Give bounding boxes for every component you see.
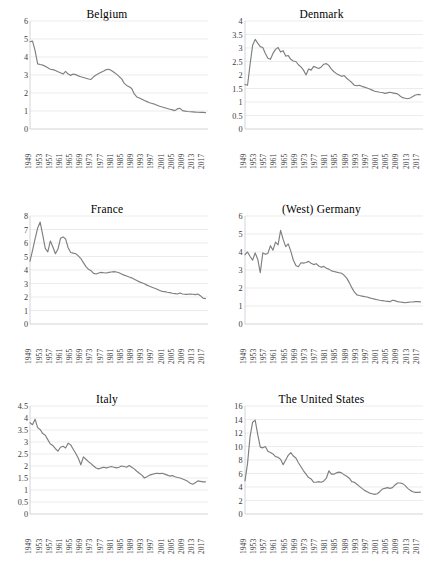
x-tick-label: 1977: [96, 139, 105, 169]
chart-title-west-germany: (West) Germany: [214, 195, 429, 216]
x-tick-label: 1969: [75, 139, 84, 169]
y-tick-label: 0.5: [232, 111, 242, 120]
panel-italy: Italy 00.511.522.533.544.519491953195719…: [0, 385, 214, 571]
x-tick-label: 2009: [177, 524, 186, 554]
x-tick-label: 1981: [106, 524, 115, 554]
panel-belgium: Belgium 01234561949195319571961196519691…: [0, 0, 214, 195]
x-tick-label: 1957: [259, 139, 268, 169]
y-tick-label: 14: [234, 415, 242, 424]
y-tick-label: 0: [24, 510, 28, 519]
chart-title-france: France: [0, 195, 214, 216]
x-tick-label: 2017: [197, 139, 206, 169]
y-tick-label: 1: [24, 107, 28, 116]
chart-title-italy: Italy: [0, 385, 214, 406]
panel-denmark: Denmark 00.511.522.533.54194919531957196…: [214, 0, 429, 195]
x-tick-label: 1997: [361, 334, 370, 364]
y-axis-labels: 0123456: [4, 21, 30, 129]
x-tick-label: 2013: [187, 524, 196, 554]
x-tick-label: 1997: [146, 334, 155, 364]
x-tick-label: 2005: [167, 139, 176, 169]
plot-area: [245, 21, 423, 129]
x-tick-label: 1953: [35, 139, 44, 169]
x-tick-label: 1965: [65, 334, 74, 364]
x-tick-label: 1969: [290, 334, 299, 364]
x-tick-label: 1965: [280, 139, 289, 169]
y-tick-label: 2: [238, 496, 242, 505]
x-tick-label: 1985: [116, 139, 125, 169]
y-tick-label: 3.5: [18, 426, 28, 435]
y-tick-label: 2.5: [232, 57, 242, 66]
y-axis-labels: 0123456: [219, 216, 245, 324]
y-tick-label: 2: [238, 71, 242, 80]
y-tick-label: 8: [238, 456, 242, 465]
x-tick-label: 2005: [381, 524, 390, 554]
y-tick-label: 1.5: [18, 474, 28, 483]
y-tick-label: 3: [24, 71, 28, 80]
y-tick-label: 6: [238, 212, 242, 221]
plot-france: 0123456781949195319571961196519691973197…: [4, 216, 210, 366]
x-tick-label: 1949: [24, 334, 33, 364]
x-tick-label: 2001: [157, 524, 166, 554]
y-tick-label: 5: [24, 35, 28, 44]
y-tick-label: 3: [24, 279, 28, 288]
x-tick-label: 1969: [75, 334, 84, 364]
x-tick-label: 1953: [35, 524, 44, 554]
plot-area: [30, 216, 208, 324]
plot-area: [30, 406, 208, 514]
y-tick-label: 2: [24, 89, 28, 98]
plot-area: [245, 216, 423, 324]
x-tick-label: 1953: [249, 524, 258, 554]
y-tick-label: 16: [234, 402, 242, 411]
x-tick-label: 2013: [402, 139, 411, 169]
x-tick-label: 2009: [391, 139, 400, 169]
x-tick-label: 2017: [197, 334, 206, 364]
x-axis-labels: 1949195319571961196519691973197719811985…: [245, 324, 423, 366]
x-tick-label: 2001: [157, 139, 166, 169]
y-tick-label: 6: [238, 469, 242, 478]
x-tick-label: 1973: [85, 139, 94, 169]
x-tick-label: 1985: [116, 524, 125, 554]
x-tick-label: 2013: [187, 334, 196, 364]
x-axis-labels: 1949195319571961196519691973197719811985…: [30, 514, 208, 556]
x-tick-label: 1997: [361, 524, 370, 554]
plot-belgium: 0123456194919531957196119651969197319771…: [4, 21, 210, 171]
x-tick-label: 1949: [239, 139, 248, 169]
y-tick-label: 2: [24, 293, 28, 302]
y-tick-label: 3: [238, 44, 242, 53]
y-tick-label: 4.5: [18, 402, 28, 411]
x-tick-label: 1965: [65, 524, 74, 554]
y-tick-label: 5: [238, 230, 242, 239]
x-tick-label: 1957: [45, 334, 54, 364]
x-tick-label: 2013: [402, 524, 411, 554]
x-tick-label: 2009: [391, 524, 400, 554]
chart-grid: Belgium 01234561949195319571961196519691…: [0, 0, 429, 571]
plot-italy: 00.511.522.533.544.519491953195719611965…: [4, 406, 210, 556]
y-axis-labels: 00.511.522.533.544.5: [4, 406, 30, 514]
x-tick-label: 1989: [126, 524, 135, 554]
x-tick-label: 1993: [136, 139, 145, 169]
x-tick-label: 1981: [320, 524, 329, 554]
x-tick-label: 1961: [269, 524, 278, 554]
x-tick-label: 1969: [290, 139, 299, 169]
x-tick-label: 2017: [412, 524, 421, 554]
panel-west-germany: (West) Germany 0123456194919531957196119…: [214, 195, 429, 385]
panel-united-states: The United States 0246810121416194919531…: [214, 385, 429, 571]
y-axis-labels: 0246810121416: [219, 406, 245, 514]
x-tick-label: 2005: [381, 139, 390, 169]
y-tick-label: 5: [24, 252, 28, 261]
x-tick-label: 1993: [136, 334, 145, 364]
y-tick-label: 1.5: [232, 84, 242, 93]
x-tick-label: 1957: [45, 524, 54, 554]
y-tick-label: 1: [24, 486, 28, 495]
x-tick-label: 1977: [96, 524, 105, 554]
x-axis-labels: 1949195319571961196519691973197719811985…: [30, 129, 208, 171]
x-tick-label: 1973: [300, 139, 309, 169]
y-tick-label: 8: [24, 212, 28, 221]
x-tick-label: 1973: [85, 334, 94, 364]
x-tick-label: 1981: [106, 334, 115, 364]
y-tick-label: 0: [24, 320, 28, 329]
series-line: [245, 420, 420, 494]
x-tick-label: 1997: [146, 524, 155, 554]
x-tick-label: 1981: [106, 139, 115, 169]
x-tick-label: 2001: [371, 334, 380, 364]
